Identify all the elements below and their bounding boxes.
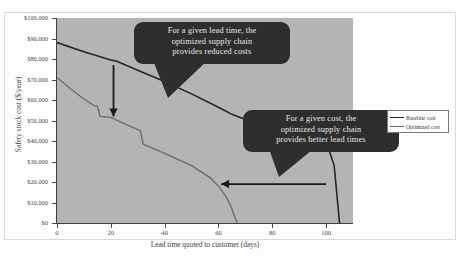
y-tick-label: $90,000 — [2, 35, 48, 42]
legend-label-baseline: Baseline cost — [406, 115, 436, 121]
callout-cost-line-3: provides better lead times — [250, 135, 392, 146]
x-tick-mark — [165, 224, 166, 228]
legend-item-optimized[interactable]: Optimized cost — [390, 122, 446, 131]
x-tick-mark — [272, 224, 273, 228]
callout-lead-time-line-2: optimized supply chain — [141, 37, 283, 48]
y-tick-label: $100,000 — [2, 14, 48, 21]
y-tick-label: $50,000 — [2, 117, 48, 124]
legend-label-optimized: Optimized cost — [406, 124, 440, 130]
annotation-arrow-head — [221, 180, 229, 188]
legend-swatch-optimized — [390, 126, 404, 127]
x-axis-title: Lead time quoted to customer (days) — [57, 240, 353, 249]
x-tick-mark — [326, 224, 327, 228]
x-tick-mark — [111, 224, 112, 228]
x-tick-mark — [218, 224, 219, 228]
callout-cost-line-1: For a given cost, the — [250, 114, 392, 125]
y-tick-label: $40,000 — [2, 137, 48, 144]
callout-lead-time-tail — [152, 58, 210, 98]
y-tick-label: $60,000 — [2, 96, 48, 103]
callout-lead-time-line-3: provides reduced costs — [141, 47, 283, 58]
callout-lead-time: For a given lead time, the optimized sup… — [134, 22, 290, 64]
legend: Baseline cost Optimized cost — [387, 110, 449, 133]
x-tick-label: 0 — [44, 229, 70, 236]
y-tick-label: $20,000 — [2, 178, 48, 185]
callout-cost: For a given cost, the optimized supply c… — [243, 110, 399, 152]
x-tick-label: 40 — [152, 229, 178, 236]
y-tick-label: $10,000 — [2, 199, 48, 206]
legend-swatch-baseline — [390, 117, 404, 118]
y-tick-label: $70,000 — [2, 76, 48, 83]
y-axis-title: Safety stock cost ($/year) — [14, 50, 23, 180]
x-tick-label: 80 — [259, 229, 285, 236]
y-tick-label: $80,000 — [2, 55, 48, 62]
x-tick-label: 20 — [98, 229, 124, 236]
annotation-arrow-head — [109, 108, 117, 116]
x-tick-label: 100 — [313, 229, 339, 236]
series-line-optimized — [57, 77, 237, 223]
x-axis-line — [56, 223, 353, 224]
x-tick-label: 60 — [205, 229, 231, 236]
callout-lead-time-line-1: For a given lead time, the — [141, 26, 283, 37]
callout-cost-line-2: optimized supply chain — [250, 125, 392, 136]
legend-item-baseline[interactable]: Baseline cost — [390, 113, 446, 122]
y-tick-label: $30,000 — [2, 158, 48, 165]
y-tick-label: $0 — [2, 219, 48, 226]
chart-screenshot: $0$10,000$20,000$30,000$40,000$50,000$60… — [0, 0, 464, 256]
x-tick-mark — [57, 224, 58, 228]
